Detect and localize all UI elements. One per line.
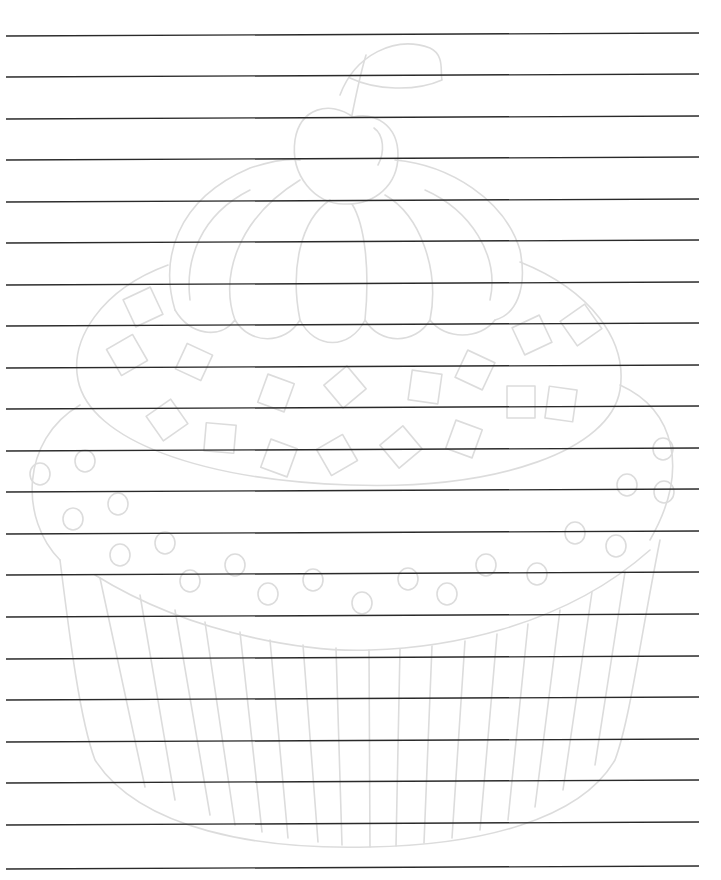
ruled-line bbox=[6, 739, 699, 742]
ruled-line bbox=[6, 866, 699, 869]
ruled-line bbox=[6, 531, 699, 534]
ruled-line bbox=[6, 33, 699, 36]
ruled-line bbox=[6, 74, 699, 77]
ruled-lines bbox=[0, 0, 721, 880]
ruled-line bbox=[6, 282, 699, 285]
ruled-line bbox=[6, 572, 699, 575]
ruled-line bbox=[6, 697, 699, 700]
ruled-line bbox=[6, 365, 699, 368]
ruled-line bbox=[6, 822, 699, 825]
ruled-line bbox=[6, 780, 699, 783]
ruled-line bbox=[6, 489, 699, 492]
ruled-line bbox=[6, 656, 699, 659]
ruled-line bbox=[6, 448, 699, 451]
ruled-line bbox=[6, 406, 699, 409]
ruled-line bbox=[6, 116, 699, 119]
ruled-line bbox=[6, 240, 699, 243]
ruled-line bbox=[6, 157, 699, 160]
lined-paper-sheet bbox=[0, 0, 721, 880]
ruled-line bbox=[6, 323, 699, 326]
ruled-line bbox=[6, 199, 699, 202]
ruled-line bbox=[6, 614, 699, 617]
